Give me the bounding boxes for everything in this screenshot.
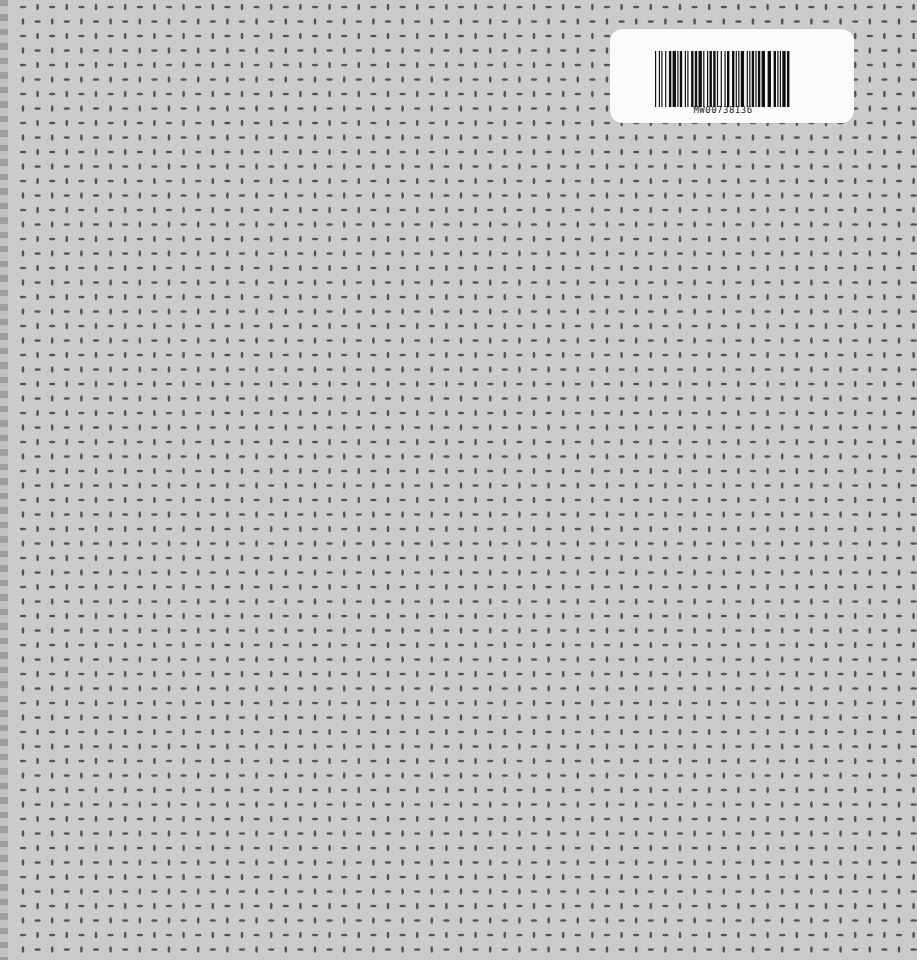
barcode-sticker: MW00738136 xyxy=(610,29,854,123)
barcode-icon xyxy=(655,51,792,107)
notebook-cover: MW00738136 xyxy=(0,0,917,960)
dot-grid-pattern xyxy=(0,0,917,960)
binding-edge xyxy=(0,0,8,960)
barcode-number: MW00738136 xyxy=(601,105,845,115)
